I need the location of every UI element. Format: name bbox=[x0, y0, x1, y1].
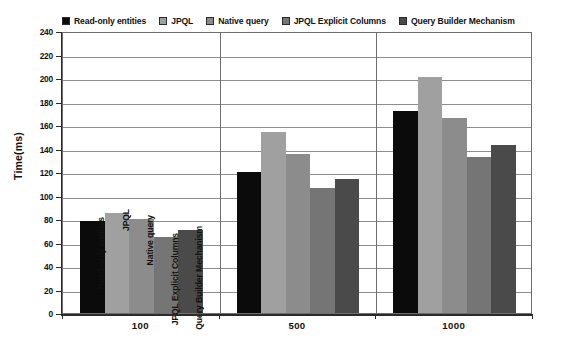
bar-500-2 bbox=[286, 154, 311, 313]
bar-500-4 bbox=[335, 179, 360, 313]
x-tick-label: 100 bbox=[132, 320, 149, 331]
y-tick-label: 20 bbox=[44, 286, 53, 294]
legend-item-4[interactable]: Query Builder Mechanism bbox=[399, 17, 515, 26]
legend-swatch-icon bbox=[399, 17, 407, 25]
y-tick-label: 60 bbox=[44, 239, 53, 247]
y-tick-label: 220 bbox=[40, 51, 53, 59]
gridline bbox=[63, 104, 531, 105]
bar-1000-2 bbox=[442, 118, 467, 313]
x-tick-mark bbox=[375, 314, 376, 319]
y-tick-label: 0 bbox=[49, 310, 53, 318]
y-tick-label: 160 bbox=[40, 122, 53, 130]
x-tick-mark bbox=[219, 314, 220, 319]
x-tick-mark bbox=[532, 314, 533, 319]
gridline bbox=[63, 57, 531, 58]
bar-500-3 bbox=[310, 188, 335, 313]
y-tick-label: 180 bbox=[40, 98, 53, 106]
plot-area: Read-only entitiesJPQLNative queryJPQL E… bbox=[62, 32, 532, 314]
y-tick-label: 120 bbox=[40, 169, 53, 177]
bar-chart: Read-only entitiesJPQLNative queryJPQL E… bbox=[0, 0, 564, 345]
legend-swatch-icon bbox=[282, 17, 290, 25]
legend-swatch-icon bbox=[159, 17, 167, 25]
legend-label: Query Builder Mechanism bbox=[411, 17, 515, 26]
inline-series-label: Native query bbox=[145, 215, 155, 265]
y-tick-label: 100 bbox=[40, 192, 53, 200]
bar-1000-4 bbox=[491, 145, 516, 313]
legend-label: JPQL Explicit Columns bbox=[294, 17, 386, 26]
x-tick-mark bbox=[62, 314, 63, 319]
inline-series-label: JPQL bbox=[121, 209, 131, 231]
inline-series-label: JPQL Explicit Columns bbox=[170, 233, 180, 325]
legend-item-2[interactable]: Native query bbox=[206, 17, 268, 26]
y-axis: Time(ms) 0204060801001201401601802002202… bbox=[0, 0, 62, 345]
y-tick-label: 80 bbox=[44, 216, 53, 224]
y-tick-label: 140 bbox=[40, 145, 53, 153]
group-separator bbox=[376, 33, 377, 313]
legend-label: JPQL bbox=[171, 17, 193, 26]
x-axis-line bbox=[61, 314, 533, 316]
bar-1000-0 bbox=[393, 111, 418, 313]
bar-1000-1 bbox=[418, 77, 443, 313]
legend-swatch-icon bbox=[62, 17, 70, 25]
legend-label: Native query bbox=[218, 17, 268, 26]
y-axis-title: Time(ms) bbox=[12, 113, 24, 199]
legend-swatch-icon bbox=[206, 17, 214, 25]
y-tick-label: 240 bbox=[40, 28, 53, 36]
legend-label: Read-only entities bbox=[74, 17, 146, 26]
x-tick-label: 500 bbox=[288, 320, 305, 331]
legend-item-3[interactable]: JPQL Explicit Columns bbox=[282, 17, 386, 26]
bar-1000-3 bbox=[467, 157, 492, 313]
group-separator bbox=[220, 33, 221, 313]
gridline bbox=[63, 80, 531, 81]
y-tick-label: 40 bbox=[44, 263, 53, 271]
bar-500-1 bbox=[261, 132, 286, 313]
bar-500-0 bbox=[237, 172, 262, 313]
inline-series-label: Read-only entities bbox=[96, 217, 106, 289]
x-tick-label: 1000 bbox=[442, 320, 465, 331]
legend-item-0[interactable]: Read-only entities bbox=[62, 17, 146, 26]
y-tick-label: 200 bbox=[40, 75, 53, 83]
legend-item-1[interactable]: JPQL bbox=[159, 17, 193, 26]
chart-legend: Read-only entitiesJPQLNative queryJPQL E… bbox=[62, 13, 532, 29]
